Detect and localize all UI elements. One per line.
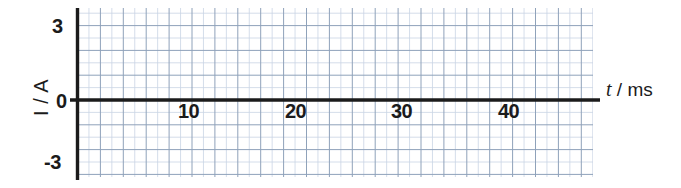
x-tick-label-30: 30 [391, 101, 412, 121]
current-time-graph-figure: I / A t / ms 3 0 -3 10 20 30 40 [0, 0, 681, 188]
x-tick-label-40: 40 [498, 101, 519, 121]
x-axis-title: t / ms [606, 79, 653, 99]
x-axis-unit-text: / ms [617, 79, 653, 100]
y-tick-label-3: 3 [52, 16, 63, 36]
y-axis-title: I / A [30, 55, 53, 141]
y-tick-label-minus-3: -3 [44, 152, 61, 172]
y-tick-label-0: 0 [56, 91, 67, 111]
x-tick-label-10: 10 [178, 101, 199, 121]
x-tick-label-20: 20 [285, 101, 306, 121]
plot-area [0, 0, 681, 188]
